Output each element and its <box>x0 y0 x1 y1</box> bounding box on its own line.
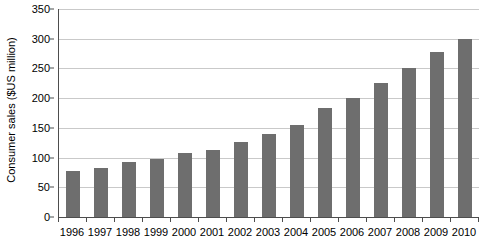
x-tick-mark <box>86 218 87 222</box>
plot-area <box>58 9 479 218</box>
x-tick-mark <box>170 218 171 222</box>
y-tick-mark <box>50 98 54 99</box>
x-tick-label: 2008 <box>396 226 420 238</box>
x-tick-mark <box>282 218 283 222</box>
y-tick-label: 100 <box>32 152 50 164</box>
bar <box>346 98 360 217</box>
x-tick-label: 2003 <box>256 226 280 238</box>
y-tick-mark <box>50 217 54 218</box>
x-tick-label: 2006 <box>340 226 364 238</box>
x-tick-label: 1997 <box>88 226 112 238</box>
x-tick-mark <box>310 218 311 222</box>
x-tick-label: 2007 <box>368 226 392 238</box>
bar <box>178 153 192 217</box>
x-tick-label: 2001 <box>200 226 224 238</box>
x-tick-mark <box>366 218 367 222</box>
y-axis-title: Consumer sales ($US million) <box>0 0 22 220</box>
x-tick-label: 1999 <box>144 226 168 238</box>
bar <box>290 125 304 217</box>
y-tick-label: 350 <box>32 3 50 15</box>
y-tick-label: 150 <box>32 122 50 134</box>
x-tick-label: 1998 <box>116 226 140 238</box>
x-axis-tick-marks <box>58 218 479 224</box>
x-tick-mark <box>114 218 115 222</box>
y-tick-label: 300 <box>32 33 50 45</box>
y-tick-label: 50 <box>38 181 50 193</box>
x-tick-mark <box>338 218 339 222</box>
y-axis-tick-labels: 050100150200250300350 <box>22 0 54 222</box>
bar <box>374 83 388 217</box>
y-tick-mark <box>50 127 54 128</box>
y-tick-mark <box>50 157 54 158</box>
bar <box>150 159 164 217</box>
bar <box>402 68 416 217</box>
x-tick-mark <box>226 218 227 222</box>
bar <box>66 171 80 217</box>
bar <box>262 134 276 217</box>
x-tick-label: 2002 <box>228 226 252 238</box>
x-tick-mark <box>478 218 479 222</box>
bar <box>234 142 248 217</box>
bar <box>206 150 220 217</box>
y-tick-mark <box>50 187 54 188</box>
x-tick-label: 2010 <box>452 226 476 238</box>
x-tick-label: 2004 <box>284 226 308 238</box>
x-tick-mark <box>142 218 143 222</box>
y-tick-mark <box>50 9 54 10</box>
x-tick-mark <box>422 218 423 222</box>
x-tick-mark <box>254 218 255 222</box>
y-tick-label: 200 <box>32 92 50 104</box>
x-tick-mark <box>394 218 395 222</box>
x-tick-label: 2009 <box>424 226 448 238</box>
bar <box>458 39 472 217</box>
y-tick-label: 250 <box>32 62 50 74</box>
y-tick-mark <box>50 68 54 69</box>
x-tick-label: 2005 <box>312 226 336 238</box>
x-tick-mark <box>450 218 451 222</box>
bar <box>94 168 108 217</box>
y-axis-title-text: Consumer sales ($US million) <box>5 37 17 183</box>
bars <box>59 9 479 217</box>
x-axis-tick-labels: 1996199719981999200020012002200320042005… <box>58 226 479 246</box>
y-tick-mark <box>50 38 54 39</box>
bar-chart: Consumer sales ($US million) 05010015020… <box>0 0 490 250</box>
x-tick-mark <box>58 218 59 222</box>
bar <box>430 52 444 217</box>
x-tick-label: 1996 <box>60 226 84 238</box>
bar <box>318 108 332 217</box>
x-tick-mark <box>198 218 199 222</box>
bar <box>122 162 136 217</box>
x-tick-label: 2000 <box>172 226 196 238</box>
